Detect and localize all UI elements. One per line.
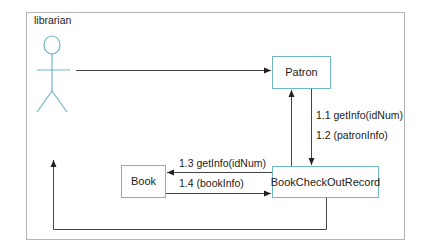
message-1-2: 1.2 (patronInfo) bbox=[316, 129, 388, 141]
record-label: BookCheckOutRecord bbox=[271, 176, 380, 188]
message-1-1: 1.1 getInfo(idNum) bbox=[316, 109, 403, 121]
object-book[interactable]: Book bbox=[122, 166, 166, 198]
actor-label: librarian bbox=[34, 14, 72, 26]
actor-librarian: librarian bbox=[34, 14, 72, 112]
object-book-checkout-record[interactable]: BookCheckOutRecord bbox=[271, 167, 380, 198]
stick-figure-icon bbox=[37, 36, 70, 112]
message-1-4: 1.4 (bookInfo) bbox=[179, 177, 244, 189]
patron-label: Patron bbox=[285, 66, 317, 78]
book-label: Book bbox=[131, 175, 157, 187]
collaboration-diagram: librarian Patron 1.1 getInfo(idNum) 1.2 … bbox=[0, 0, 423, 251]
message-1-3: 1.3 getInfo(idNum) bbox=[179, 157, 266, 169]
object-patron[interactable]: Patron bbox=[273, 57, 331, 89]
diagram-frame bbox=[27, 13, 405, 240]
